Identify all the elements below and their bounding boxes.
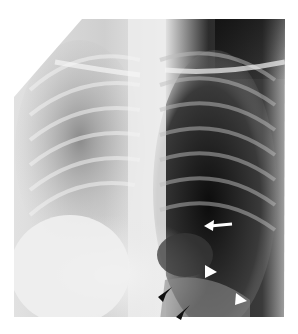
radiograph-body — [0, 0, 298, 334]
chest-xray-image — [0, 0, 298, 334]
